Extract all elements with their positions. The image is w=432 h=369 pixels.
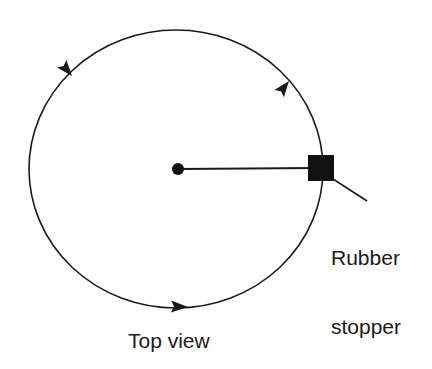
rubber-stopper-label: Rubber stopper	[331, 200, 401, 369]
arrowhead-icon-upper-right	[274, 77, 293, 97]
circular-motion-diagram: Rubber stopper Top view	[0, 0, 432, 369]
top-view-caption: Top view	[128, 329, 210, 352]
rubber-stopper-label-line2: stopper	[331, 315, 401, 338]
string-radius-line	[178, 168, 316, 169]
rubber-stopper-label-line1: Rubber	[331, 246, 401, 269]
motion-arrowheads	[57, 60, 294, 313]
arrowhead-icon-bottom	[171, 300, 188, 313]
center-dot-icon	[172, 163, 184, 175]
stopper-leader-line	[333, 179, 367, 201]
rubber-stopper-square-icon	[308, 155, 334, 181]
